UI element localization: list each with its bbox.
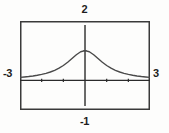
y-max-label: 2: [0, 4, 169, 15]
y-min-label: -1: [0, 116, 169, 127]
x-max-label: 3: [153, 68, 159, 79]
graphing-calculator-plot: 2 -3 3 -1: [0, 0, 169, 133]
plot-area: [20, 21, 150, 110]
x-min-label: -3: [3, 68, 12, 79]
plot-svg: [20, 21, 150, 110]
